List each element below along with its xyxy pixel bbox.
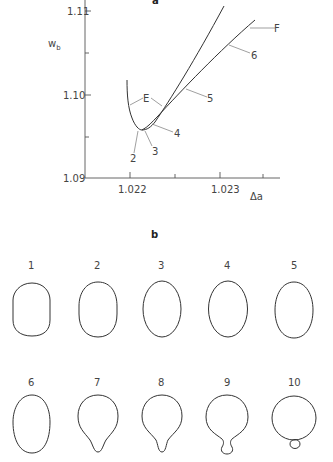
shape-10-main [272,396,316,440]
y-axis-label: wb [48,38,61,52]
leader-3 [145,131,152,146]
x-axis-label: Δa [250,191,263,202]
shape-label-9: 9 [224,377,230,388]
leader-5 [186,89,207,97]
shape-2 [79,282,117,337]
curve-label-4: 4 [174,128,180,139]
shape-8 [142,395,182,452]
panel-b-label: b [151,229,158,240]
x-tick-label: 1.022 [118,184,147,195]
shape-label-2: 2 [94,260,100,271]
leader-e-left [130,98,143,105]
shape-label-7: 7 [94,377,100,388]
curve-f [142,20,255,130]
y-tick-label: 1.10 [63,90,85,101]
leader-2 [134,131,138,153]
shape-label-10: 10 [288,377,301,388]
shape-label-8: 8 [158,377,164,388]
curve-label-6: 6 [251,50,257,61]
leader-4 [152,124,173,132]
figure: a 1.09 1.10 1.11 1.022 1.023 wb Δa E F 2… [0,0,333,462]
curve-label-5: 5 [207,93,213,104]
shape-label-5: 5 [291,260,297,271]
curve-label-e: E [143,93,149,104]
curve-label-2: 2 [130,153,136,164]
shape-label-3: 3 [158,260,164,271]
curve-label-f: F [274,23,280,34]
x-tick-label: 1.023 [211,184,240,195]
leader-6 [229,45,250,53]
shape-1 [13,283,50,336]
y-tick-label: 1.09 [63,173,85,184]
shape-3 [143,281,181,337]
panel-a-label: a [152,0,159,6]
shape-label-4: 4 [224,260,230,271]
shape-5 [275,282,313,338]
shape-9 [206,395,248,454]
shape-7 [78,395,118,452]
shape-label-6: 6 [28,377,34,388]
shape-4 [209,281,248,337]
y-tick-label: 1.11 [67,6,89,17]
curve-label-3: 3 [152,146,158,157]
shape-10-droplet [290,440,300,449]
leader-e-right [151,98,162,106]
shape-label-1: 1 [28,260,34,271]
shape-6 [13,395,50,453]
curve-e [127,6,224,130]
